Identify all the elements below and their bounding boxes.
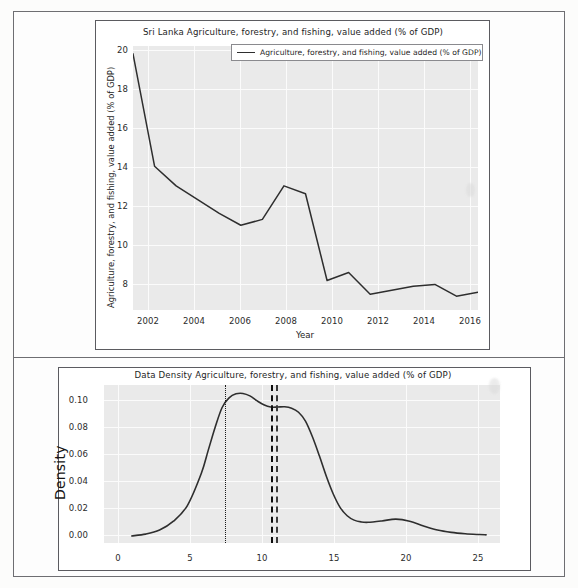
xtick-d-20: 20	[400, 553, 411, 563]
ytick-d-000: 0.00	[57, 530, 88, 540]
legend-label-agriculture: Agriculture, forestry, and fishing, valu…	[260, 48, 482, 57]
xtick-2016: 2016	[459, 316, 481, 326]
scan-artifact	[466, 183, 475, 197]
mode-line	[225, 385, 226, 543]
xtick-d-10: 10	[256, 553, 267, 563]
xtick-2002: 2002	[137, 316, 159, 326]
scanned-page: Sri Lanka Agriculture, forestry, and fis…	[0, 0, 578, 588]
mean-line	[276, 385, 278, 543]
density-chart-title: Data Density Agriculture, forestry, and …	[135, 370, 452, 380]
xtick-d-0: 0	[115, 553, 121, 563]
xtick-d-25: 25	[472, 553, 483, 563]
legend-line-swatch	[237, 52, 255, 53]
scan-artifact	[489, 378, 500, 394]
line-chart-plot-area	[133, 46, 478, 310]
xtick-2012: 2012	[367, 316, 389, 326]
line-chart-title: Sri Lanka Agriculture, forestry, and fis…	[143, 27, 443, 37]
line-chart-xlabel: Year	[296, 330, 314, 340]
ytick-d-008: 0.08	[57, 422, 88, 432]
xtick-2010: 2010	[321, 316, 343, 326]
ytick-top-20: 20	[108, 45, 128, 55]
xtick-2014: 2014	[413, 316, 435, 326]
ytick-d-002: 0.02	[57, 503, 88, 513]
line-chart-ylabel: Agriculture, forestry, and fishing, valu…	[106, 67, 116, 308]
xtick-2004: 2004	[183, 316, 205, 326]
xtick-2006: 2006	[229, 316, 251, 326]
density-chart-plot-area	[104, 385, 500, 543]
density-chart-ylabel: Density	[52, 445, 68, 500]
line-chart-legend[interactable]: Agriculture, forestry, and fishing, valu…	[231, 44, 483, 61]
density-chart-series	[104, 385, 500, 543]
xtick-2008: 2008	[275, 316, 297, 326]
panel-divider	[14, 357, 565, 358]
xtick-d-15: 15	[328, 553, 339, 563]
line-chart-series	[133, 46, 478, 310]
ytick-d-010: 0.10	[57, 395, 88, 405]
median-line	[271, 385, 273, 543]
xtick-d-5: 5	[187, 553, 193, 563]
